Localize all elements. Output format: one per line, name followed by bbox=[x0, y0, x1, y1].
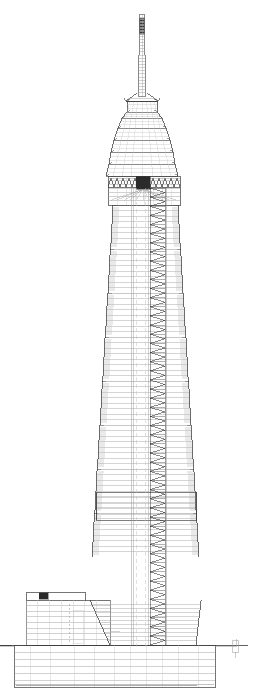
tower-section-drawing bbox=[0, 0, 253, 693]
drawing-canvas bbox=[0, 0, 253, 693]
podium-mechanical-block bbox=[39, 593, 48, 599]
cornice-dark-block bbox=[136, 176, 150, 189]
paper-background bbox=[0, 0, 253, 693]
